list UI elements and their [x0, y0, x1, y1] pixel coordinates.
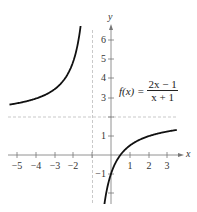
curve-left-branch: [9, 11, 82, 105]
y-axis-arrow-icon: [109, 24, 113, 30]
x-tick-label: −3: [50, 161, 61, 171]
x-tick-label: 1: [128, 161, 133, 171]
y-tick-label: 5: [101, 54, 106, 64]
x-axis-arrow-icon: [178, 153, 184, 157]
function-formula: f(x) = 2x − 1 x + 1: [119, 78, 178, 103]
formula-numerator: 2x − 1: [147, 78, 177, 91]
y-tick-label: −1: [95, 169, 106, 179]
x-tick-label: 2: [147, 161, 152, 171]
formula-denominator: x + 1: [151, 91, 174, 103]
y-tick-label: 1: [101, 131, 106, 141]
x-axis-label: x: [186, 149, 190, 159]
y-axis-label: y: [108, 12, 112, 22]
formula-lhs: f(x) =: [119, 85, 144, 97]
y-tick-label: 4: [101, 73, 106, 83]
y-tick-label: 6: [101, 35, 106, 45]
x-tick-label: −5: [12, 161, 23, 171]
x-tick-label: 3: [165, 161, 170, 171]
x-tick-label: −2: [68, 161, 79, 171]
formula-fraction: 2x − 1 x + 1: [147, 78, 177, 103]
y-tick-label: 3: [101, 93, 106, 103]
function-graph: [0, 0, 197, 212]
x-tick-label: −4: [31, 161, 42, 171]
